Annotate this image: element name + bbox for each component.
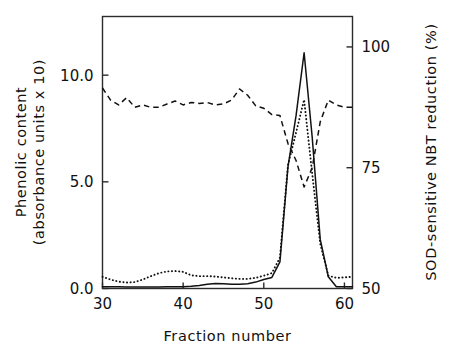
y-axis-right-tick-labels: 5075100 (362, 38, 391, 298)
x-tick-label: 30 (93, 295, 112, 313)
y-axis-left-title-line1: Phenolic content (13, 87, 29, 218)
y-axis-right-title: SOD-sensitive NBT reduction (%) (423, 23, 439, 280)
figure-container: 30405060 0.05.010.0 5075100 Fraction num… (0, 0, 449, 351)
series-phenolic-dotted (103, 100, 353, 283)
y-axis-left-title-line2: (absorbance units x 10) (31, 59, 47, 245)
y-right-tick-label: 75 (362, 159, 381, 177)
x-tick-label: 40 (174, 295, 193, 313)
x-tick-label: 50 (254, 295, 273, 313)
y-axis-left-tick-labels: 0.05.010.0 (60, 67, 93, 298)
series-phenolic-solid (103, 53, 353, 287)
x-tick-label: 60 (335, 295, 354, 313)
y-right-tick-label: 50 (362, 280, 381, 298)
chart-canvas: 30405060 0.05.010.0 5075100 Fraction num… (0, 0, 449, 351)
y-axis-right-ticks (347, 47, 353, 289)
y-axis-left-ticks (103, 75, 109, 288)
y-left-tick-label: 5.0 (70, 173, 94, 191)
x-axis-title: Fraction number (163, 328, 291, 344)
y-left-tick-label: 10.0 (60, 67, 93, 85)
y-right-tick-label: 100 (362, 38, 391, 56)
x-axis-tick-labels: 30405060 (93, 295, 354, 313)
y-left-tick-label: 0.0 (70, 280, 94, 298)
